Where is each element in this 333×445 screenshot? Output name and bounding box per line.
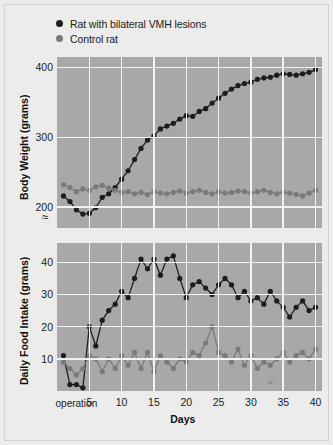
gridline-vertical [218,243,220,391]
legend-item-control: Control rat [56,31,206,46]
gridline-vertical [121,57,123,228]
data-point [158,273,163,278]
x-tick-label: 35 [277,396,289,408]
gridline-vertical [153,57,155,228]
data-point [113,188,118,193]
data-point [210,100,215,105]
data-point [171,366,176,371]
data-point [67,199,72,204]
x-tick-label: 40 [310,396,322,408]
data-point [287,72,292,77]
data-point [100,318,105,323]
data-point [138,190,143,195]
data-point [255,189,260,194]
data-point [203,285,208,290]
gridline-vertical [89,57,91,228]
data-point [261,302,266,307]
data-point [113,366,118,371]
data-point [138,146,143,151]
gridline-vertical [186,57,188,228]
data-point [306,191,311,196]
data-point [229,190,234,195]
data-point [197,188,202,193]
data-point [177,188,182,193]
data-point [100,369,105,374]
y-axis-title-food-intake: Daily Food Intake (grams) [18,257,30,385]
data-point [261,188,266,193]
data-point [255,77,260,82]
data-point [145,192,150,197]
data-point [80,366,85,371]
data-point [229,87,234,92]
y-tick-label: 300 [35,131,53,143]
data-point [177,117,182,122]
data-point [235,295,240,300]
data-point [132,350,137,355]
data-point [235,347,240,352]
data-point [177,276,182,281]
data-point [190,282,195,287]
data-point [222,91,227,96]
y-tick-label: 30 [41,288,53,300]
gridline-vertical [315,243,317,391]
data-point [229,359,234,364]
data-point [74,189,79,194]
data-point [145,137,150,142]
data-point [145,350,150,355]
figure-container: Rat with bilateral VMH lesions Control r… [0,0,333,445]
x-tick-label: 30 [245,396,257,408]
data-point [203,190,208,195]
y-tick-label: 40 [41,256,53,268]
data-point [268,363,273,368]
data-point [113,302,118,307]
data-point [164,124,169,129]
x-tick-label: 20 [180,396,192,408]
data-point [132,276,137,281]
gridline-vertical [250,57,252,228]
legend-item-lesion: Rat with bilateral VMH lesions [56,16,206,31]
data-point [306,308,311,313]
data-point [268,190,273,195]
data-point [138,366,143,371]
series-lesion [61,67,318,217]
data-point [158,126,163,131]
chart-daily-food-intake [57,243,322,391]
data-point [274,73,279,78]
data-point [300,193,305,198]
data-point [106,191,111,196]
data-point [61,193,66,198]
data-point [93,184,98,189]
data-point [74,207,79,212]
data-point [300,71,305,76]
data-point [126,363,131,368]
data-point [294,192,299,197]
data-point [242,363,247,368]
data-point [61,359,66,364]
data-point [229,282,234,287]
data-point [203,106,208,111]
data-point [235,188,240,193]
data-point [255,366,260,371]
data-point [274,298,279,303]
series-line [63,327,315,375]
x-axis-title-days: Days [170,413,195,425]
data-point [203,340,208,345]
data-point [261,359,266,364]
data-point [93,343,98,348]
data-point [100,195,105,200]
data-point [287,191,292,196]
data-point [190,189,195,194]
data-point [126,189,131,194]
x-tick-label: 15 [148,396,160,408]
data-point [74,382,79,387]
gridline-vertical [153,243,155,391]
gridline-vertical [282,243,284,391]
data-point [132,191,137,196]
y-tick-label: 20 [41,321,53,333]
data-point [306,70,311,75]
legend-label-control: Control rat [70,33,118,45]
y-tick-label: 10 [41,353,53,365]
print-speck-artifact [268,381,273,384]
legend-marker-lesion-icon [56,20,63,27]
data-point [171,121,176,126]
